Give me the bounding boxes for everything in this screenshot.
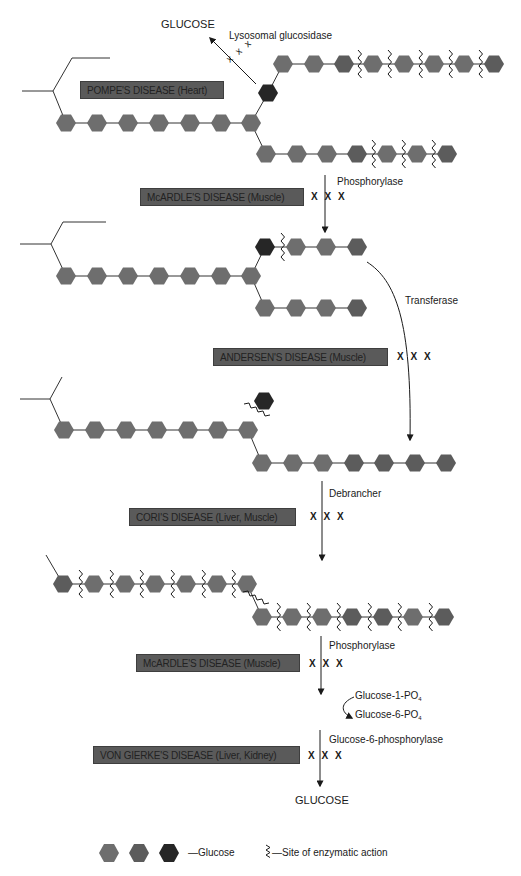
disease-mcardle-2: McARDLE'S DISEASE (Muscle) — [136, 654, 300, 672]
block-marker-cori: X X X — [310, 511, 346, 522]
glucose-icon — [147, 422, 167, 439]
glucose-icon — [283, 455, 303, 472]
glucose-icon — [334, 56, 354, 73]
block-marker-mcardle-1: X X X — [311, 191, 347, 202]
legend-glucose-icons — [99, 844, 179, 862]
glucose-icon — [178, 422, 198, 439]
glucose-icon — [347, 300, 367, 317]
glucose-product-top: GLUCOSE — [161, 18, 215, 30]
glucose-icon — [145, 576, 165, 593]
enzyme-transferase: Transferase — [405, 295, 458, 306]
disease-von-gierke: VON GIERKE'S DISEASE (Liver, Kidney) — [93, 746, 300, 764]
glucose-icon — [484, 56, 504, 73]
glucose-icon — [176, 576, 196, 593]
glucose-icon — [273, 56, 293, 73]
glucose-icon — [118, 115, 138, 132]
glucose-icon — [87, 268, 107, 285]
glucose-units — [53, 56, 504, 626]
glucose-icon — [374, 455, 394, 472]
glucose-icon — [312, 609, 332, 626]
glucose-icon — [180, 268, 200, 285]
glucose-icon — [149, 115, 169, 132]
glucose-icon — [118, 268, 138, 285]
glucose-icon — [316, 300, 336, 317]
glucose-product-bottom: GLUCOSE — [295, 794, 349, 806]
glucose-icon — [255, 300, 275, 317]
glucose-icon — [115, 576, 135, 593]
glucose-black-icon — [254, 393, 274, 410]
glucose-icon — [344, 455, 364, 472]
glucose-icon — [317, 146, 337, 163]
block-marker-von-gierke: X X X — [308, 750, 344, 761]
glucose-icon — [116, 422, 136, 439]
glucose-icon — [454, 56, 474, 73]
glycogen-branch-lines — [20, 58, 110, 584]
glucose-icon — [347, 146, 367, 163]
enzyme-phosphorylase-2: Phosphorylase — [329, 640, 395, 651]
branch-line — [53, 58, 72, 91]
legend-site-label: —Site of enzymatic action — [272, 847, 388, 858]
glucose-icon — [211, 268, 231, 285]
glucose-icon — [436, 455, 456, 472]
glucose-icon — [56, 268, 76, 285]
glucose-black-icon — [159, 844, 179, 862]
glucose-icon — [54, 422, 74, 439]
disease-mcardle-1: McARDLE'S DISEASE (Muscle) — [140, 188, 304, 206]
glucose-icon — [282, 609, 302, 626]
glucose-icon — [87, 115, 107, 132]
glucose-icon — [342, 609, 362, 626]
enzyme-debrancher: Debrancher — [329, 488, 381, 499]
glucose-icon — [241, 115, 261, 132]
block-marker-mcardle-2: X X X — [309, 658, 345, 669]
glucose-icon — [377, 146, 397, 163]
glucose-icon — [407, 146, 427, 163]
branch-line — [51, 222, 63, 244]
glucose-icon — [347, 239, 367, 256]
enzymatic-site-diagonal-icon — [243, 591, 269, 604]
glucose-icon — [149, 268, 169, 285]
glucose-icon — [211, 115, 231, 132]
glucose-dark-icon — [129, 844, 149, 862]
glucose-medium-icon — [99, 844, 119, 862]
glucose-icon — [394, 56, 414, 73]
glucose-icon — [434, 609, 454, 626]
glucose-icon — [53, 576, 73, 593]
glucose-icon — [373, 609, 393, 626]
glucose-icon — [84, 576, 104, 593]
branch-line — [50, 377, 62, 399]
enzymatic-action-sites — [79, 50, 483, 631]
glucose-icon — [256, 146, 276, 163]
legend-glucose-label: —Glucose — [188, 847, 235, 858]
glucose-black-icon — [258, 85, 278, 102]
glucose-icon — [437, 146, 457, 163]
glucose-icon — [316, 239, 336, 256]
glucose-icon — [286, 300, 306, 317]
glucose-icon — [85, 422, 105, 439]
glucose-icon — [287, 146, 307, 163]
glucose-icon — [180, 115, 200, 132]
glucose-icon — [286, 239, 306, 256]
glucose-icon — [363, 56, 383, 73]
glucose-icon — [56, 115, 76, 132]
glucose-icon — [405, 455, 425, 472]
glucose-icon — [252, 609, 272, 626]
enzyme-phosphorylase-1: Phosphorylase — [337, 176, 403, 187]
glucose-icon — [207, 576, 227, 593]
glucose-icon — [252, 455, 272, 472]
glucose-6-phosphate: Glucose-6-PO4 — [355, 709, 422, 721]
glucose-icon — [424, 56, 444, 73]
enzymatic-site-legend-icon — [266, 845, 270, 858]
enzyme-glucose-6-phosphorylase: Glucose-6-phosphorylase — [329, 734, 443, 745]
glucose-icon — [238, 422, 258, 439]
glucose-icon — [208, 422, 228, 439]
glucose-icon — [304, 56, 324, 73]
glucose-icon — [403, 609, 423, 626]
glucose-black-icon — [255, 239, 275, 256]
glycosidic-bonds — [63, 64, 494, 617]
glucose-icon — [241, 268, 261, 285]
disease-cori: CORI'S DISEASE (Liver, Muscle) — [129, 508, 296, 526]
isomerization-arrow — [343, 697, 354, 718]
glucose-icon — [313, 455, 333, 472]
block-marker-andersen: X X X — [397, 351, 433, 362]
disease-pompe: POMPE'S DISEASE (Heart) — [80, 81, 224, 99]
